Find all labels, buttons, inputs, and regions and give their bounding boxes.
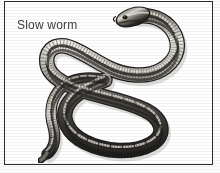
head xyxy=(113,3,153,32)
figure-caption: Slow worm xyxy=(17,18,77,32)
illustration-plate: Slow worm xyxy=(0,0,220,173)
eye xyxy=(123,15,128,19)
tail-tip xyxy=(40,153,47,161)
